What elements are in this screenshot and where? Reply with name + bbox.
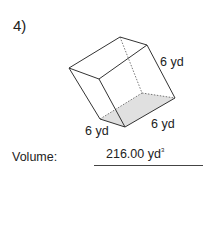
volume-label: Volume: [12, 150, 57, 164]
unit-exponent: 3 [161, 147, 164, 153]
edge-label-right: 6 yd [160, 55, 184, 69]
answer-underline [94, 165, 203, 166]
edge-label-bottom-right: 6 yd [151, 117, 175, 131]
volume-answer: 216.00 yd3 [106, 147, 164, 161]
edge-label-bottom-left: 6 yd [85, 124, 109, 138]
